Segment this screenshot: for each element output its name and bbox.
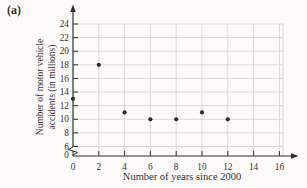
svg-text:16: 16 <box>275 162 285 172</box>
y-axis-title: Number of motor vehicle accidents (in mi… <box>34 27 58 147</box>
svg-text:4: 4 <box>122 162 127 172</box>
svg-text:20: 20 <box>60 46 70 56</box>
svg-text:22: 22 <box>60 33 70 43</box>
y-axis-title-line1: Number of motor vehicle <box>34 27 46 147</box>
figure-panel: (a) Number of motor vehicle accidents (i… <box>0 0 307 188</box>
svg-text:10: 10 <box>60 114 70 124</box>
panel-label: (a) <box>7 3 21 18</box>
svg-text:16: 16 <box>60 74 70 84</box>
svg-text:12: 12 <box>60 101 70 111</box>
svg-text:6: 6 <box>148 162 153 172</box>
svg-text:14: 14 <box>249 162 259 172</box>
svg-text:18: 18 <box>60 60 70 70</box>
svg-text:2: 2 <box>96 162 101 172</box>
svg-text:12: 12 <box>223 162 233 172</box>
svg-text:8: 8 <box>174 162 179 172</box>
x-axis-title: Number of years since 2000 <box>82 171 282 182</box>
svg-text:6: 6 <box>64 142 69 152</box>
svg-text:10: 10 <box>197 162 207 172</box>
svg-text:8: 8 <box>64 128 69 138</box>
svg-text:14: 14 <box>60 87 70 97</box>
y-axis-title-line2: accidents (in millions) <box>46 27 58 147</box>
svg-text:24: 24 <box>60 19 70 29</box>
svg-text:0: 0 <box>71 162 76 172</box>
